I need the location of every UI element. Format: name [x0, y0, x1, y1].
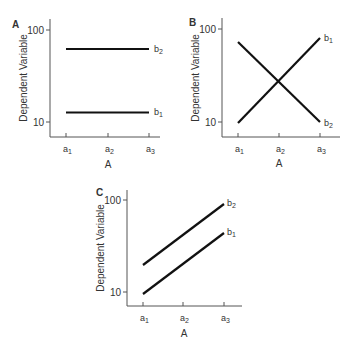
series-line-b2 — [143, 204, 224, 265]
series-line-b1 — [143, 233, 224, 294]
x-tick-label: a3 — [221, 313, 230, 324]
series-label-b1: b1 — [227, 227, 236, 238]
x-tick-label: a1 — [235, 144, 244, 155]
y-tick-label: 10 — [110, 287, 122, 298]
x-axis-label: A — [181, 328, 188, 339]
series-label-b1: b1 — [154, 107, 163, 118]
y-tick-label: 100 — [104, 195, 121, 206]
panel-letter: B — [189, 17, 196, 28]
x-tick-label: a2 — [105, 144, 114, 155]
y-tick-label: 10 — [33, 117, 45, 128]
y-axis-label: Dependent Variable — [95, 204, 106, 292]
series-label-b2: b2 — [227, 198, 236, 209]
x-tick-label: a1 — [140, 313, 149, 324]
y-tick-label: 10 — [205, 117, 217, 128]
panel-letter: A — [12, 19, 19, 30]
x-tick-label: a1 — [63, 144, 72, 155]
x-tick-label: a3 — [317, 144, 326, 155]
panel-b: B 100 10 Dependent Variable a1 a2 a3 A b… — [189, 17, 340, 169]
series-label-b2: b2 — [154, 44, 163, 55]
x-tick-label: a2 — [180, 313, 189, 324]
axes — [127, 190, 242, 306]
series-label-b1: b1 — [324, 33, 333, 44]
figure-panels: A 100 10 Dependent Variable a1 a2 a3 A b… — [0, 0, 352, 356]
x-axis-label: A — [105, 159, 112, 170]
series-label-b2: b2 — [324, 118, 333, 129]
axes — [50, 19, 160, 137]
y-axis-label: Dependent Variable — [18, 34, 29, 122]
x-axis-label: A — [276, 158, 283, 169]
x-tick-label: a2 — [276, 144, 285, 155]
panel-letter: C — [96, 187, 103, 198]
y-tick-label: 100 — [199, 24, 216, 35]
y-axis-label: Dependent Variable — [190, 34, 201, 122]
x-tick-label: a3 — [146, 144, 155, 155]
y-tick-label: 100 — [27, 25, 44, 36]
panel-c: C 100 10 Dependent Variable a1 a2 a3 A b… — [95, 187, 242, 339]
panel-a: A 100 10 Dependent Variable a1 a2 a3 A b… — [12, 19, 163, 170]
